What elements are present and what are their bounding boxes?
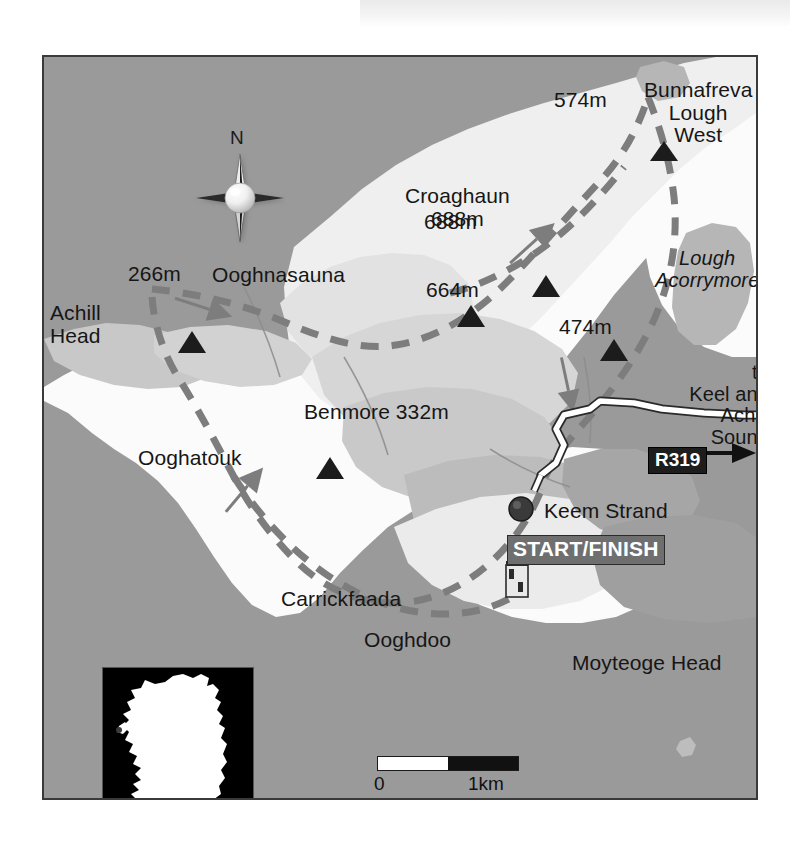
label-ooghdoo: Ooghdoo xyxy=(364,629,451,652)
label-peak-574m: 574m xyxy=(554,89,607,112)
label-to-keel-and-achill-sound: to Keel and Achill Sound xyxy=(604,362,758,448)
map-canvas[interactable]: N Ooghnasauna Achill Head Ooghatouk Carr… xyxy=(42,55,758,800)
scale-bar-min-label: 0 xyxy=(374,773,385,795)
label-ooghatouk: Ooghatouk xyxy=(138,447,242,470)
start-finish-label: START/FINISH xyxy=(507,535,665,565)
label-peak-688m: 688m xyxy=(424,211,477,234)
scale-bar-segment-black xyxy=(448,757,518,770)
road-badge-r319: R319 xyxy=(648,447,707,474)
label-lough-acorrymore: Lough Acorrymore xyxy=(655,248,758,291)
label-ooghnasauna: Ooghnasauna xyxy=(212,264,345,287)
label-moyteoge-head: Moyteoge Head xyxy=(572,652,722,675)
label-bunnafreva-lough-west: Bunnafreva Lough West xyxy=(644,79,752,147)
compass-north-letter: N xyxy=(230,127,244,149)
scan-edge-band xyxy=(360,0,790,26)
label-peak-266m: 266m xyxy=(128,263,181,286)
ireland-locator-inset xyxy=(102,667,254,800)
start-finish-marker xyxy=(509,497,533,521)
label-peak-664m: 664m xyxy=(426,279,479,302)
label-keem-strand: Keem Strand xyxy=(544,500,668,523)
label-peak-474m: 474m xyxy=(559,316,612,339)
label-carrickfaada: Carrickfaada xyxy=(281,588,401,611)
compass-rose-icon xyxy=(194,152,286,244)
signal-tower-icon xyxy=(506,561,528,597)
scale-bar-segment-white xyxy=(378,757,448,770)
scale-bar-max-label: 1km xyxy=(468,773,504,795)
label-achill-head: Achill Head xyxy=(50,302,101,347)
scale-bar xyxy=(377,756,519,771)
label-peak-benmore-332m: Benmore 332m xyxy=(304,401,449,424)
